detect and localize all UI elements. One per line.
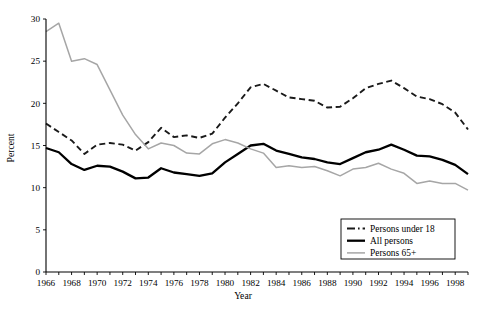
chart-legend: Persons under 18All personsPersons 65+ bbox=[341, 219, 455, 259]
x-tick-label: 1966 bbox=[37, 278, 56, 288]
y-tick-label: 30 bbox=[31, 14, 41, 24]
y-tick-labels: 051015202530 bbox=[31, 14, 41, 277]
x-tick-label: 1970 bbox=[88, 278, 107, 288]
chart-canvas: 1966196819701972197419761978198019821984… bbox=[0, 0, 479, 311]
x-tick-label: 1994 bbox=[395, 278, 414, 288]
legend-item-label: Persons 65+ bbox=[370, 248, 416, 258]
x-tick-label: 1974 bbox=[139, 278, 158, 288]
y-tick-label: 0 bbox=[35, 267, 40, 277]
x-tick-label: 1976 bbox=[165, 278, 184, 288]
x-tick-label: 1986 bbox=[293, 278, 312, 288]
x-tick-label: 1992 bbox=[369, 278, 388, 288]
x-tick-label: 1990 bbox=[344, 278, 363, 288]
x-tick-label: 1984 bbox=[267, 278, 286, 288]
x-tick-label: 1996 bbox=[420, 278, 439, 288]
series-layer bbox=[46, 23, 468, 190]
series-line-1 bbox=[46, 81, 468, 154]
y-axis-title: Percent bbox=[5, 133, 16, 162]
x-tick-label: 1982 bbox=[241, 278, 260, 288]
y-tick-label: 25 bbox=[31, 56, 41, 66]
x-tick-label: 1978 bbox=[190, 278, 209, 288]
y-tick-label: 5 bbox=[35, 225, 40, 235]
plot-area bbox=[46, 23, 468, 190]
x-axis-title: Year bbox=[234, 290, 252, 301]
legend-item-label: Persons under 18 bbox=[370, 224, 435, 234]
series-line-3 bbox=[46, 23, 468, 190]
x-tick-label: 1998 bbox=[446, 278, 465, 288]
x-tick-label: 1988 bbox=[318, 278, 337, 288]
y-tick-label: 10 bbox=[31, 183, 41, 193]
x-tick-label: 1972 bbox=[114, 278, 133, 288]
x-tick-label: 1968 bbox=[62, 278, 81, 288]
y-tick-label: 15 bbox=[31, 141, 41, 151]
legend-item-label: All persons bbox=[370, 236, 413, 246]
poverty-rate-line-chart: 1966196819701972197419761978198019821984… bbox=[0, 0, 479, 311]
y-tick-label: 20 bbox=[31, 99, 41, 109]
x-tick-labels: 1966196819701972197419761978198019821984… bbox=[37, 278, 465, 288]
x-tick-label: 1980 bbox=[216, 278, 235, 288]
